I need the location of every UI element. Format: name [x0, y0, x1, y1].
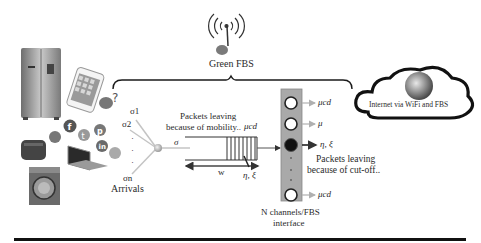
- channel-rate-2: μ: [318, 118, 323, 128]
- svg-text:in: in: [99, 143, 106, 151]
- svg-text:t: t: [82, 132, 85, 141]
- queue-buffer: [185, 137, 257, 160]
- aggregation-node: [154, 144, 162, 152]
- channel-busy: [285, 139, 298, 152]
- channels-label-line1: N channels/FBS: [261, 207, 320, 217]
- cloud-label: Internet via WiFi and FBS: [369, 100, 448, 109]
- dot: ·: [131, 157, 134, 167]
- washing-machine-icon: [29, 167, 60, 205]
- sigma-label: σ: [174, 137, 178, 147]
- smartphone-icon: [66, 67, 105, 114]
- cutoff-label-line1: Packets leaving: [316, 154, 375, 164]
- skype-icon: [49, 131, 61, 143]
- channel-idle: [285, 97, 297, 109]
- sigma-1-label: σ1: [130, 106, 139, 116]
- sigma-n-label: σn: [123, 173, 132, 183]
- brace: [113, 76, 352, 89]
- eta-xi-label: η, ξ: [243, 170, 256, 180]
- dot: ·: [131, 133, 134, 143]
- w-label: w: [218, 167, 225, 177]
- arrivals-label: Arrivals: [111, 183, 144, 194]
- svg-text:?: ?: [112, 91, 118, 105]
- channel-rate-3: η, ξ: [320, 139, 333, 149]
- channel-rate-1: μcd: [318, 97, 331, 107]
- dot: ·: [131, 145, 134, 155]
- globe-icon: [405, 72, 433, 100]
- channel-idle: [285, 189, 297, 201]
- mobility-label-line1: Packets leaving: [180, 111, 236, 121]
- question-leaf-icon: ?: [99, 91, 118, 109]
- svg-text:f: f: [68, 122, 72, 132]
- leaf-icon: [216, 45, 228, 55]
- toaster-icon: [21, 140, 46, 160]
- channel-rate-4: μcd: [318, 189, 331, 199]
- mobility-rate: μcd: [244, 121, 257, 131]
- mobility-label-line2: because of mobility..: [166, 122, 241, 132]
- channel-idle: [285, 118, 297, 130]
- fbs-label: Green FBS: [209, 58, 254, 69]
- wireless-antenna-icon: [209, 14, 245, 46]
- rss-icon: [109, 147, 121, 159]
- svg-text:p: p: [97, 127, 103, 136]
- sigma-2-label: σ2: [122, 119, 131, 129]
- refrigerator-icon: [21, 48, 61, 120]
- cutoff-label-line2: because of cut-off..: [307, 165, 380, 175]
- channels-label-line2: interface: [273, 218, 304, 228]
- bottom-rule: [14, 238, 466, 241]
